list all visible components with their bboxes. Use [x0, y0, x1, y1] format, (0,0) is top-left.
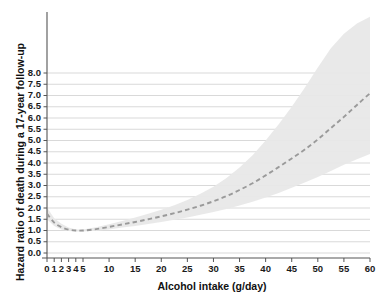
x-tick-label: 2	[59, 263, 64, 274]
x-tick-label: 40	[260, 263, 271, 274]
y-tick-label: 4.0	[28, 157, 41, 168]
y-tick-label: 0.0	[28, 247, 41, 258]
y-axis-title: Hazard ratio of death during a 17-year f…	[14, 43, 26, 281]
y-tick-label: 6.0	[28, 112, 41, 123]
x-tick-label: 20	[156, 263, 167, 274]
x-tick-label: 55	[339, 263, 350, 274]
y-tick-label: 8.0	[28, 67, 41, 78]
y-tick-label: 6.5	[28, 100, 42, 111]
y-tick-label: 5.5	[28, 123, 42, 134]
x-tick-label: 35	[234, 263, 245, 274]
x-tick-label: 1	[52, 263, 58, 274]
y-tick-label: 5.0	[28, 134, 41, 145]
y-tick-label: 1.5	[28, 213, 42, 224]
x-axis-title: Alcohol intake (g/day)	[157, 280, 266, 292]
y-tick-label: 2.0	[28, 202, 41, 213]
x-tick-label: 4	[73, 263, 79, 274]
x-tick-label: 30	[208, 263, 219, 274]
y-tick-label: 2.5	[28, 190, 42, 201]
chart-figure: 0.00.51.01.52.02.53.03.54.04.55.05.56.06…	[0, 0, 384, 299]
y-tick-label: 1.0	[28, 224, 41, 235]
y-tick-label: 0.5	[28, 235, 42, 246]
x-tick-label: 25	[182, 263, 193, 274]
x-tick-label: 50	[313, 263, 324, 274]
hazard-ratio-line-chart: 0.00.51.01.52.02.53.03.54.04.55.05.56.06…	[0, 0, 384, 299]
y-tick-label: 4.5	[28, 145, 42, 156]
y-tick-label: 3.5	[28, 168, 42, 179]
x-tick-label: 10	[104, 263, 115, 274]
x-tick-label: 5	[80, 263, 86, 274]
x-tick-label: 3	[66, 263, 71, 274]
x-tick-label: 60	[365, 263, 376, 274]
x-tick-label: 15	[130, 263, 141, 274]
y-tick-label: 7.0	[28, 89, 41, 100]
x-tick-label: 0	[44, 263, 49, 274]
y-tick-label: 3.0	[28, 179, 41, 190]
y-tick-label: 7.5	[28, 78, 42, 89]
y-tick-labels: 0.00.51.01.52.02.53.03.54.04.55.05.56.06…	[28, 67, 42, 258]
x-tick-label: 45	[286, 263, 297, 274]
